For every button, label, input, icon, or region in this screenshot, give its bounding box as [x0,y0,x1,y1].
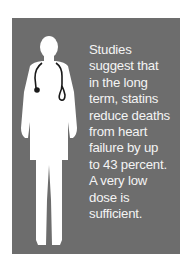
doctor-head [40,36,58,58]
caption-line: sufficient. [89,206,179,222]
caption-line: suggest that [89,58,179,74]
caption-line: Studies [89,42,179,58]
caption-line: reduce deaths [89,108,179,124]
caption-line: to 43 percent. [89,157,179,173]
caption-line: failure by up [89,140,179,156]
caption-line: in the long [89,75,179,91]
doctor-coat [21,61,77,245]
caption-text: Studies suggest that in the long term, s… [89,42,179,222]
stethoscope-chestpiece [34,87,40,93]
caption-line: from heart [89,124,179,140]
caption-line: A very low [89,173,179,189]
caption-line: term, statins [89,91,179,107]
caption-line: dose is [89,190,179,206]
